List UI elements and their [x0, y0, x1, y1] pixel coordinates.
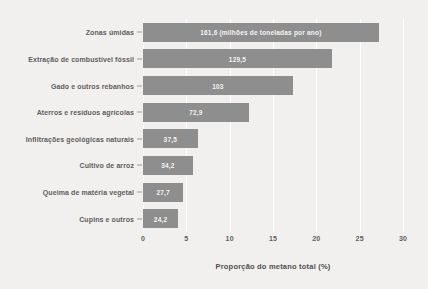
bar-value-label: 34,2	[161, 162, 174, 169]
category-tick-mark	[137, 138, 142, 139]
x-tick-label: 5	[184, 235, 188, 242]
x-tick-label: 25	[356, 235, 364, 242]
bar-row: Zonas úmidas161,6 (milhões de toneladas …	[143, 23, 403, 42]
category-tick-mark	[137, 218, 142, 219]
bar-row: Infiltrações geológicas naturais37,5	[143, 129, 403, 148]
category-label: Cultivo de arroz	[80, 162, 135, 169]
category-tick-mark	[137, 85, 142, 86]
x-tick-label: 0	[141, 235, 145, 242]
x-tick-label: 10	[226, 235, 234, 242]
bar-value-label: 37,5	[164, 135, 177, 142]
x-tick-label: 30	[399, 235, 407, 242]
x-tick-label: 15	[269, 235, 277, 242]
category-tick-mark	[137, 192, 142, 193]
category-label: Gado e outros rebanhos	[51, 82, 134, 89]
bar-row: Cupins e outros24,2	[143, 209, 403, 228]
category-label: Aterros e resíduos agrícolas	[37, 109, 134, 116]
bar-row: Queima de matéria vegetal27,7	[143, 183, 403, 202]
category-label: Cupins e outros	[79, 215, 134, 222]
bar-row: Gado e outros rebanhos103	[143, 76, 403, 95]
category-tick-mark	[137, 165, 142, 166]
x-axis-title: Proporção do metano total (%)	[143, 262, 403, 271]
bar-value-label: 103	[212, 82, 223, 89]
bar-row: Extração de combustível fóssil129,5	[143, 49, 403, 68]
plot-area: 051015202530Zonas úmidas161,6 (milhões d…	[143, 19, 403, 232]
bar-row: Cultivo de arroz34,2	[143, 156, 403, 175]
gridline-30	[403, 19, 404, 232]
x-tick-label: 20	[312, 235, 320, 242]
category-tick-mark	[137, 58, 142, 59]
bar-value-label: 24,2	[154, 215, 167, 222]
bar-value-label: 129,5	[229, 55, 246, 62]
category-label: Extração de combustível fóssil	[28, 55, 134, 62]
category-tick-mark	[137, 112, 142, 113]
bar-value-label: 72,9	[189, 109, 202, 116]
category-label: Queima de matéria vegetal	[43, 189, 134, 196]
category-label: Infiltrações geológicas naturais	[26, 135, 134, 142]
category-tick-mark	[137, 32, 142, 33]
bar-row: Aterros e resíduos agrícolas72,9	[143, 103, 403, 122]
methane-sources-bar-chart: 051015202530Zonas úmidas161,6 (milhões d…	[0, 0, 428, 289]
bar-value-label: 161,6 (milhões de toneladas por ano)	[200, 29, 321, 36]
category-label: Zonas úmidas	[86, 29, 134, 36]
bar-value-label: 27,7	[156, 189, 169, 196]
